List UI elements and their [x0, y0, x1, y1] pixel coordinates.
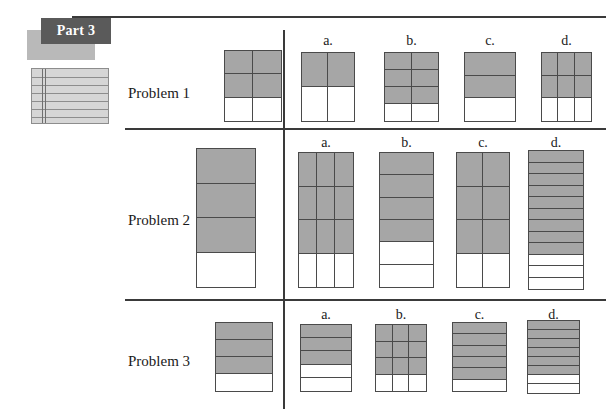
shaded-cell — [542, 76, 558, 99]
shaded-cell — [528, 348, 579, 357]
notebook-rule-line — [32, 117, 108, 118]
option-letter-a-problem-2: a. — [314, 135, 338, 151]
option-letter-b-problem-1: b. — [400, 33, 424, 49]
unshaded-cell — [197, 253, 255, 288]
shaded-cell — [317, 220, 335, 254]
notebook-rule-line — [32, 85, 108, 86]
problem-2-option-d-figure[interactable] — [528, 150, 584, 290]
shaded-cell — [197, 184, 255, 219]
problem-1-reference-figure[interactable] — [224, 50, 282, 122]
shaded-cell — [301, 351, 351, 364]
shaded-cell — [457, 220, 483, 254]
unshaded-cell — [409, 375, 426, 392]
option-letter-b-problem-2: b. — [395, 135, 419, 151]
shaded-cell — [529, 243, 583, 255]
shaded-cell — [385, 70, 412, 87]
unshaded-cell — [380, 242, 433, 264]
shaded-cell — [335, 220, 353, 254]
notebook-paper-icon — [31, 68, 109, 124]
option-letter-a-problem-1: a. — [316, 33, 340, 49]
unshaded-cell — [225, 98, 253, 121]
problem-1-option-d-figure[interactable] — [541, 52, 592, 122]
shaded-cell — [409, 325, 426, 342]
problem-2-option-c-figure[interactable] — [456, 152, 510, 288]
option-letter-d-problem-1: d. — [555, 33, 579, 49]
shaded-cell — [412, 53, 439, 70]
shaded-cell — [528, 330, 579, 339]
top-horizontal-rule — [72, 16, 606, 18]
vertical-divider-rule — [283, 30, 285, 409]
unshaded-cell — [393, 375, 410, 392]
shaded-cell — [301, 338, 351, 351]
problem-3-option-a-figure[interactable] — [300, 324, 352, 392]
unshaded-cell — [335, 254, 353, 288]
shaded-cell — [225, 51, 253, 74]
unshaded-cell — [529, 266, 583, 278]
problem-label-3: Problem 3 — [128, 353, 190, 370]
shaded-cell — [529, 151, 583, 163]
shaded-cell — [453, 323, 506, 334]
shaded-cell — [253, 74, 281, 97]
unshaded-cell — [575, 98, 591, 121]
option-letter-b-problem-3: b. — [389, 307, 413, 323]
shaded-cell — [197, 218, 255, 253]
shaded-cell — [376, 342, 393, 359]
shaded-cell — [529, 163, 583, 175]
unshaded-cell — [529, 255, 583, 267]
unshaded-cell — [253, 98, 281, 121]
shaded-cell — [529, 232, 583, 244]
shaded-cell — [335, 153, 353, 187]
unshaded-cell — [299, 254, 317, 288]
notebook-margin-line — [42, 69, 43, 123]
problem-2-reference-figure[interactable] — [196, 148, 256, 288]
shaded-cell — [465, 53, 515, 76]
unshaded-cell — [216, 374, 272, 391]
unshaded-cell — [542, 98, 558, 121]
problem-1-option-a-figure[interactable] — [301, 52, 355, 122]
problem-label-1: Problem 1 — [128, 85, 190, 102]
problem-2-option-b-figure[interactable] — [379, 152, 434, 288]
unshaded-cell — [558, 98, 574, 121]
problem-3-reference-figure[interactable] — [215, 322, 273, 392]
shaded-cell — [317, 153, 335, 187]
shaded-cell — [453, 357, 506, 368]
problem-1-option-c-figure[interactable] — [464, 52, 516, 122]
notebook-rule-line — [32, 77, 108, 78]
shaded-cell — [376, 358, 393, 375]
divider-rule-problem-2 — [125, 299, 606, 301]
divider-rule-problem-1 — [125, 128, 606, 130]
shaded-cell — [412, 87, 439, 104]
unshaded-cell — [465, 98, 515, 121]
option-letter-d-problem-2: d. — [544, 135, 568, 151]
shaded-cell — [380, 153, 433, 175]
shaded-cell — [529, 197, 583, 209]
shaded-cell — [380, 198, 433, 220]
notebook-rule-line — [32, 109, 108, 110]
shaded-cell — [302, 53, 328, 87]
problem-3-option-d-figure[interactable] — [527, 320, 580, 394]
shaded-cell — [529, 209, 583, 221]
option-letter-a-problem-3: a. — [314, 307, 338, 323]
shaded-cell — [453, 346, 506, 357]
shaded-cell — [483, 153, 509, 187]
shaded-cell — [216, 340, 272, 357]
shaded-cell — [299, 220, 317, 254]
problem-3-option-c-figure[interactable] — [452, 322, 507, 392]
notebook-margin-line — [45, 69, 46, 123]
shaded-cell — [376, 325, 393, 342]
shaded-cell — [299, 153, 317, 187]
option-letter-c-problem-1: c. — [478, 33, 502, 49]
shaded-cell — [393, 342, 410, 359]
shaded-cell — [528, 366, 579, 375]
problem-2-option-a-figure[interactable] — [298, 152, 354, 288]
option-letter-c-problem-2: c. — [471, 135, 495, 151]
shaded-cell — [529, 174, 583, 186]
unshaded-cell — [376, 375, 393, 392]
shaded-cell — [225, 74, 253, 97]
shaded-cell — [380, 220, 433, 242]
shaded-cell — [393, 325, 410, 342]
shaded-cell — [528, 321, 579, 330]
shaded-cell — [409, 342, 426, 359]
problem-3-option-b-figure[interactable] — [375, 324, 427, 392]
problem-1-option-b-figure[interactable] — [384, 52, 439, 122]
